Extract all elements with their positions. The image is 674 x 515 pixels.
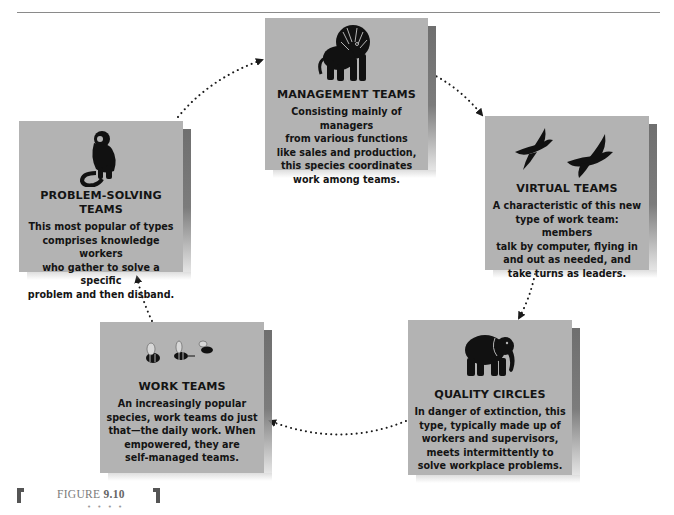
card-title: PROBLEM-SOLVING TEAMS xyxy=(19,189,183,217)
birds-icon xyxy=(507,118,627,178)
card-quality-circles: QUALITY CIRCLES In danger of extinction,… xyxy=(408,320,572,475)
card-title: QUALITY CIRCLES xyxy=(408,388,572,402)
card-description: In danger of extinction, this type, typi… xyxy=(408,405,572,473)
card-management-teams: MANAGEMENT TEAMS Consisting mainly of ma… xyxy=(265,18,428,170)
description-line: talk by computer, flying in xyxy=(491,240,643,254)
description-line: comprises knowledge workers xyxy=(25,234,177,261)
description-line: species, work teams do just xyxy=(106,411,258,425)
card-description: An increasingly popular species, work te… xyxy=(100,397,264,465)
description-line: from various functions xyxy=(271,132,422,146)
arrow-virtual-to-quality xyxy=(519,274,535,318)
figure-label-prefix: FIGURE xyxy=(57,488,100,500)
card-face: VIRTUAL TEAMS A characteristic of this n… xyxy=(485,116,649,270)
card-title: VIRTUAL TEAMS xyxy=(485,182,649,196)
description-line: who gather to solve a specific xyxy=(25,261,177,288)
description-line: A characteristic of this new xyxy=(491,199,643,213)
figure-caption: FIGURE 9.10 • • • • xyxy=(17,486,162,512)
description-line: type, typically made up of xyxy=(414,419,566,433)
card-shadow xyxy=(416,475,580,483)
description-line: self-managed teams. xyxy=(106,451,258,465)
figure-number: 9.10 xyxy=(104,488,125,500)
arrow-management-to-virtual xyxy=(432,74,482,115)
card-shadow xyxy=(572,328,580,475)
description-line: problem and then disband. xyxy=(25,288,177,302)
description-line: workers and supervisors, xyxy=(414,432,566,446)
description-line: In danger of extinction, this xyxy=(414,405,566,419)
card-description: A characteristic of this new type of wor… xyxy=(485,199,649,281)
card-shadow xyxy=(428,26,436,170)
caption-bracket-left xyxy=(17,488,24,503)
card-description: Consisting mainly of managers from vario… xyxy=(265,105,428,187)
card-title: MANAGEMENT TEAMS xyxy=(265,88,428,102)
arrow-problem-to-management xyxy=(178,60,262,117)
card-shadow xyxy=(649,124,657,270)
card-work-teams: WORK TEAMS An increasingly popular speci… xyxy=(100,322,264,473)
card-face: QUALITY CIRCLES In danger of extinction,… xyxy=(408,320,572,475)
caption-bracket-right xyxy=(153,488,160,503)
top-rule xyxy=(17,12,660,13)
card-face: MANAGEMENT TEAMS Consisting mainly of ma… xyxy=(265,18,428,170)
description-line: This most popular of types xyxy=(25,220,177,234)
description-line: work among teams. xyxy=(271,173,422,187)
description-line: solve workplace problems. xyxy=(414,459,566,473)
description-line: empowered, they are xyxy=(106,438,258,452)
card-face: PROBLEM-SOLVING TEAMS This most popular … xyxy=(19,121,183,272)
card-description: This most popular of types comprises kno… xyxy=(19,220,183,302)
elephant-icon xyxy=(461,330,519,378)
card-title: WORK TEAMS xyxy=(100,380,264,394)
figure-label: FIGURE 9.10 xyxy=(57,488,125,500)
monkey-icon xyxy=(76,129,126,187)
card-face: WORK TEAMS An increasingly popular speci… xyxy=(100,322,264,473)
description-line: Consisting mainly of managers xyxy=(271,105,422,132)
description-line: type of work team: members xyxy=(491,213,643,240)
card-shadow xyxy=(183,129,191,272)
description-line: meets intermittently to xyxy=(414,446,566,460)
description-line: this species coordinates xyxy=(271,159,422,173)
description-line: that—the daily work. When xyxy=(106,424,258,438)
card-shadow xyxy=(264,330,272,473)
description-line: like sales and production, xyxy=(271,146,422,160)
card-shadow xyxy=(108,473,272,481)
card-virtual-teams: VIRTUAL TEAMS A characteristic of this n… xyxy=(485,116,649,270)
description-line: An increasingly popular xyxy=(106,397,258,411)
arrow-quality-to-work xyxy=(270,421,406,435)
description-line: and out as needed, and xyxy=(491,253,643,267)
description-line: take turns as leaders. xyxy=(491,267,643,281)
caption-ornament: • • • • xyxy=(87,503,124,511)
bees-icon xyxy=(137,338,227,372)
lion-icon xyxy=(317,22,377,84)
card-problem-solving-teams: PROBLEM-SOLVING TEAMS This most popular … xyxy=(19,121,183,272)
